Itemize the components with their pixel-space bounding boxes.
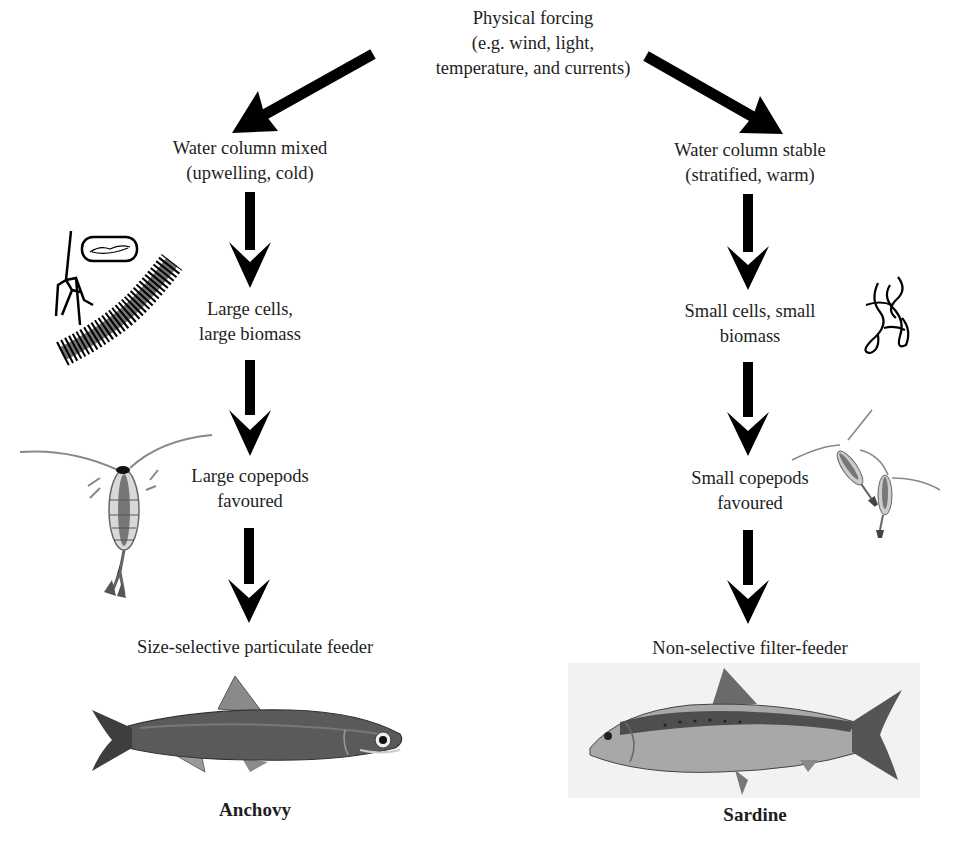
node-non-selective-feeder: Non-selective filter-feeder — [600, 636, 900, 661]
mixed-line-1: Water column mixed — [130, 136, 370, 161]
large-copepods-line-1: Large copepods — [150, 464, 350, 489]
sardine-label: Sardine — [690, 802, 820, 827]
dinoflagellate-icon — [56, 231, 93, 325]
node-small-cells: Small cells, small biomass — [645, 299, 855, 349]
node-water-column-stable: Water column stable (stratified, warm) — [630, 138, 870, 188]
arrow-down-left-2-icon — [229, 360, 271, 456]
arrow-down-left-3-icon — [228, 528, 270, 623]
large-copepods-line-2: favoured — [150, 489, 350, 514]
root-line-3: temperature, and currents) — [383, 56, 683, 81]
pennate-diatom-icon — [82, 237, 137, 261]
arrow-down-left-1-icon — [229, 192, 271, 288]
sardine-name: Sardine — [690, 802, 820, 827]
sardine-fish-icon — [568, 663, 920, 798]
node-small-copepods: Small copepods favoured — [645, 466, 855, 516]
small-cells-line-1: Small cells, small — [645, 299, 855, 324]
small-phytoplankton-icon — [865, 277, 908, 353]
node-water-column-mixed: Water column mixed (upwelling, cold) — [130, 136, 370, 186]
arrow-to-mixed-icon — [232, 54, 373, 133]
size-selective-label: Size-selective particulate feeder — [90, 635, 420, 660]
anchovy-fish-icon — [92, 676, 402, 772]
root-line-2: (e.g. wind, light, — [383, 31, 683, 56]
small-cells-line-2: biomass — [645, 324, 855, 349]
arrow-down-right-3-icon — [727, 530, 769, 624]
arrow-down-right-2-icon — [727, 362, 769, 456]
large-cells-line-2: large biomass — [150, 322, 350, 347]
stable-line-2: (stratified, warm) — [630, 163, 870, 188]
non-selective-label: Non-selective filter-feeder — [600, 636, 900, 661]
node-size-selective-feeder: Size-selective particulate feeder — [90, 635, 420, 660]
root-node-physical-forcing: Physical forcing (e.g. wind, light, temp… — [383, 6, 683, 81]
node-large-cells: Large cells, large biomass — [150, 297, 350, 347]
small-copepods-line-2: favoured — [645, 491, 855, 516]
small-copepods-line-1: Small copepods — [645, 466, 855, 491]
arrow-down-right-1-icon — [727, 194, 769, 290]
large-copepod-icon — [20, 435, 212, 598]
node-large-copepods: Large copepods favoured — [150, 464, 350, 514]
large-cells-line-1: Large cells, — [150, 297, 350, 322]
anchovy-name: Anchovy — [190, 797, 320, 822]
diagram-graphics — [0, 0, 967, 845]
root-line-1: Physical forcing — [383, 6, 683, 31]
stable-line-1: Water column stable — [630, 138, 870, 163]
anchovy-label: Anchovy — [190, 797, 320, 822]
mixed-line-2: (upwelling, cold) — [130, 161, 370, 186]
